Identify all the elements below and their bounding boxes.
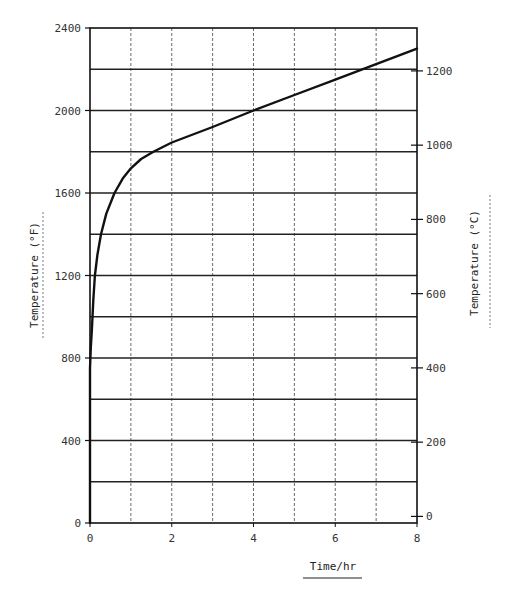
y-axis-label-celsius: Temperature (°C) <box>468 210 481 316</box>
y-tick-label: 400 <box>61 435 81 448</box>
temperature-time-chart: 04008001200160020002400 0200400600800100… <box>0 0 513 599</box>
y-tick-label: 2400 <box>55 22 82 35</box>
x-axis-label: Time/hr <box>310 560 357 573</box>
x-tick-label: 8 <box>414 532 421 545</box>
y-right-tick-label: 400 <box>426 362 446 375</box>
x-tick-label: 4 <box>250 532 257 545</box>
y-tick-label: 800 <box>61 352 81 365</box>
x-tick-label: 6 <box>332 532 339 545</box>
y-axis-label-fahrenheit: Temperature (°F) <box>28 222 41 328</box>
y-tick-label: 1600 <box>55 187 82 200</box>
y-right-tick-label: 1000 <box>426 139 453 152</box>
y-right-tick-label: 600 <box>426 288 446 301</box>
left-axis-fahrenheit: 04008001200160020002400 <box>55 22 91 530</box>
y-right-tick-label: 1200 <box>426 65 453 78</box>
y-right-tick-label: 200 <box>426 436 446 449</box>
left-axis-title: Temperature (°F) <box>28 212 43 338</box>
right-axis-title: Temperature (°C) <box>468 195 490 328</box>
x-tick-label: 2 <box>168 532 175 545</box>
y-tick-label: 0 <box>74 517 81 530</box>
x-axis-time: 02468 <box>87 523 421 545</box>
x-axis-title: Time/hr <box>303 560 362 578</box>
y-tick-label: 1200 <box>55 270 82 283</box>
y-tick-label: 2000 <box>55 105 82 118</box>
y-right-tick-label: 0 <box>426 510 433 523</box>
y-right-tick-label: 800 <box>426 213 446 226</box>
x-tick-label: 0 <box>87 532 94 545</box>
